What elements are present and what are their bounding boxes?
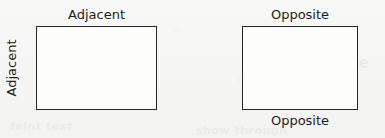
rectangle-right [242,26,358,110]
label-right-rectangle-top: Opposite [242,7,358,22]
label-left-rectangle-top: Adjacent [36,7,157,22]
figure-canvas: scanned page reverse side faint text sho… [0,0,385,138]
label-right-rectangle-bottom: Opposite [242,113,358,128]
rectangle-left [36,26,157,110]
label-left-rectangle-side: Adjacent [4,26,19,110]
bleed-through-artifact: faint text [10,120,73,133]
